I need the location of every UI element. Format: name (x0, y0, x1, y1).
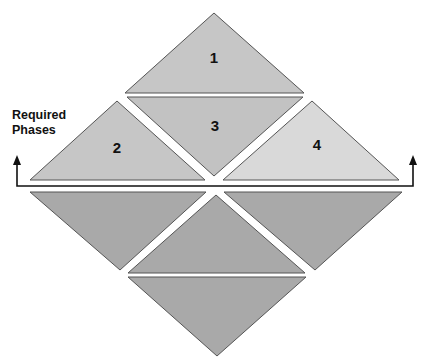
phase-4-label: 4 (313, 136, 322, 153)
phase-1-label: 1 (210, 49, 218, 66)
phase-3-label: 3 (211, 117, 219, 134)
phases-diagram: 1 3 2 4 Required Phases (0, 0, 428, 362)
required-phases-label: Required Phases (12, 108, 66, 138)
left-arrow-up-icon (13, 155, 21, 165)
diagram-svg: 1 3 2 4 (0, 0, 428, 362)
phase-2-label: 2 (113, 139, 121, 156)
lower-bottom-triangle (128, 277, 306, 356)
right-arrow-up-icon (409, 155, 417, 165)
required-phases-label-line1: Required (12, 108, 66, 123)
required-phases-label-line2: Phases (12, 123, 66, 138)
